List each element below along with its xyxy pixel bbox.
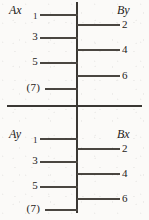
caption-bottom-right: Bx xyxy=(117,128,130,140)
tick-label-top-right-2: 2 xyxy=(122,19,128,30)
tick-top-left-3 xyxy=(40,37,78,39)
tick-label-top-right-6: 6 xyxy=(122,70,128,81)
tick-top-right-2 xyxy=(77,24,120,26)
tick-label-bottom-left-3: 3 xyxy=(32,155,38,166)
tick-bottom-right-6 xyxy=(77,198,120,200)
tick-bottom-left-7 xyxy=(45,209,78,211)
vertical-axis-top xyxy=(76,2,78,106)
tick-label-bottom-right-6: 6 xyxy=(122,193,128,204)
tick-label-top-right-4: 4 xyxy=(122,44,128,55)
tick-label-bottom-left-1: 1 xyxy=(33,135,38,146)
tick-label-top-left-3: 3 xyxy=(32,31,38,42)
tick-top-right-6 xyxy=(77,75,120,77)
tick-bottom-left-3 xyxy=(40,161,78,163)
tick-bottom-right-4 xyxy=(77,173,120,175)
tick-label-bottom-right-4: 4 xyxy=(122,168,128,179)
figure-canvas: Ax By 1 3 5 (7) 2 4 6 Ay Bx 1 3 5 (7) 2 … xyxy=(0,0,149,220)
tick-label-bottom-left-7: (7) xyxy=(27,203,40,214)
tick-label-top-left-7: (7) xyxy=(27,82,40,93)
tick-top-left-1 xyxy=(40,14,78,16)
tick-label-bottom-left-5: 5 xyxy=(32,180,38,191)
tick-top-left-7 xyxy=(45,88,78,90)
tick-label-top-left-5: 5 xyxy=(32,56,38,67)
tick-bottom-left-5 xyxy=(40,186,78,188)
caption-bottom-left: Ay xyxy=(9,128,21,140)
tick-label-top-left-1: 1 xyxy=(33,11,38,22)
tick-bottom-right-2 xyxy=(77,148,120,150)
tick-label-bottom-right-2: 2 xyxy=(122,143,128,154)
caption-top-right: By xyxy=(117,4,130,16)
caption-top-left: Ax xyxy=(9,4,22,16)
panel-separator xyxy=(7,105,142,107)
tick-top-right-4 xyxy=(77,49,120,51)
tick-top-left-5 xyxy=(40,62,78,64)
tick-bottom-left-1 xyxy=(40,138,78,140)
